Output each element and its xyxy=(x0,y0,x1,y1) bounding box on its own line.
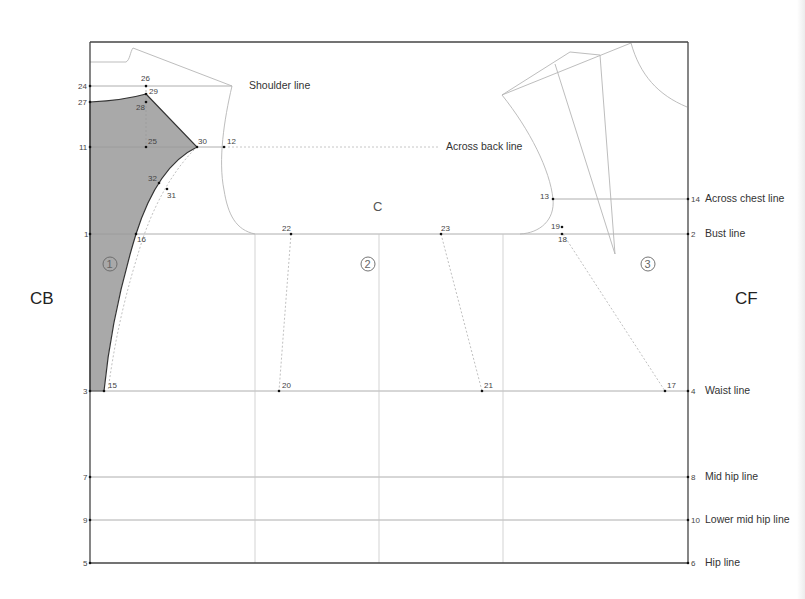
point-26: 26 xyxy=(141,74,150,83)
row-number-8: 8 xyxy=(691,473,696,482)
row-number-24: 24 xyxy=(78,82,87,91)
point-18: 18 xyxy=(558,235,567,244)
row-number-4: 4 xyxy=(691,387,696,396)
across-back-line-label: Across back line xyxy=(446,140,523,152)
point-17: 17 xyxy=(667,381,676,390)
row-number-5: 5 xyxy=(83,559,88,568)
cb-label: CB xyxy=(30,289,54,308)
waist-line-label: Waist line xyxy=(705,384,750,396)
point-15: 15 xyxy=(108,381,117,390)
center-c-label: C xyxy=(373,199,382,214)
svg-text:1: 1 xyxy=(107,258,113,270)
bust-line-label: Bust line xyxy=(705,227,745,239)
row-number-9: 9 xyxy=(83,516,88,525)
point-16: 16 xyxy=(137,235,146,244)
shoulder-line-label: Shoulder line xyxy=(249,79,310,91)
point-21: 21 xyxy=(484,381,493,390)
across-chest-line-label: Across chest line xyxy=(705,192,785,204)
row-number-27: 27 xyxy=(78,98,87,107)
lower-mid-hip-line-label: Lower mid hip line xyxy=(705,513,790,525)
row-number-3: 3 xyxy=(83,387,88,396)
pattern-draft-diagram: 24 27 11 1 3 7 9 5 14 2 4 8 10 6 Shoulde… xyxy=(0,0,805,599)
row-number-6: 6 xyxy=(691,559,696,568)
outer-frame xyxy=(90,42,688,563)
mid-hip-line-label: Mid hip line xyxy=(705,470,758,482)
point-28: 28 xyxy=(136,103,145,112)
point-23: 23 xyxy=(441,224,450,233)
row-number-2: 2 xyxy=(691,230,696,239)
svg-text:3: 3 xyxy=(645,258,651,270)
row-number-14: 14 xyxy=(691,195,700,204)
point-22: 22 xyxy=(282,224,291,233)
point-32: 32 xyxy=(148,174,157,183)
point-13: 13 xyxy=(540,192,549,201)
row-number-11: 11 xyxy=(79,143,88,152)
point-25: 25 xyxy=(148,137,157,146)
point-19: 19 xyxy=(551,222,560,231)
front-bodice-outline xyxy=(502,43,687,254)
point-12: 12 xyxy=(227,137,236,146)
dart-dotted-lines xyxy=(108,147,665,391)
piece-number-2: 2 xyxy=(361,257,375,271)
point-31: 31 xyxy=(167,191,176,200)
row-number-1: 1 xyxy=(84,230,89,239)
vertical-panel-lines xyxy=(255,234,503,563)
point-29: 29 xyxy=(149,87,158,96)
hip-line-label: Hip line xyxy=(705,556,740,568)
point-30: 30 xyxy=(198,137,207,146)
point-20: 20 xyxy=(282,381,291,390)
cf-label: CF xyxy=(735,289,758,308)
svg-text:2: 2 xyxy=(365,258,371,270)
row-number-10: 10 xyxy=(691,516,700,525)
piece-number-3: 3 xyxy=(641,257,655,271)
row-number-7: 7 xyxy=(83,473,88,482)
